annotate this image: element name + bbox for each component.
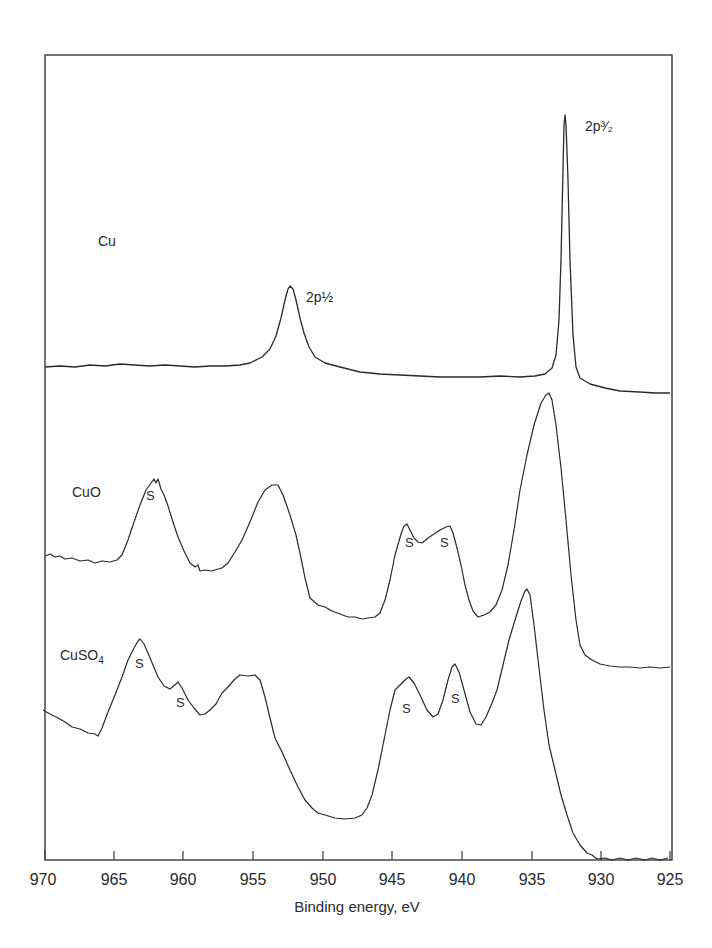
satellite-label: S xyxy=(405,535,414,550)
tick-label: 925 xyxy=(657,871,684,888)
tick-label: 965 xyxy=(101,871,128,888)
tick-label: 950 xyxy=(310,871,337,888)
cuso4-spectrum-line xyxy=(43,589,668,860)
tick-label: 940 xyxy=(449,871,476,888)
peak-label-2p-half: 2p½ xyxy=(306,289,334,305)
satellite-label: S xyxy=(135,656,144,671)
x-axis-ticks xyxy=(45,851,670,860)
xps-chart: 970 965 960 955 950 945 940 935 930 925 … xyxy=(0,0,712,948)
x-axis-tick-labels: 970 965 960 955 950 945 940 935 930 925 xyxy=(30,871,684,888)
satellite-label: S xyxy=(440,535,449,550)
satellite-label: S xyxy=(176,695,185,710)
cuo-spectrum-line xyxy=(45,393,670,668)
series-label-cuo: CuO xyxy=(72,484,101,500)
series-label-cuso4: CuSO4 xyxy=(60,647,104,666)
tick-label: 945 xyxy=(379,871,406,888)
tick-label: 930 xyxy=(588,871,615,888)
x-axis-title: Binding energy, eV xyxy=(294,898,420,915)
plot-frame xyxy=(45,55,672,860)
series-label-cuso4-main: CuSO xyxy=(60,647,98,663)
peak-label-2p-three-halves: 2p³⁄₂ xyxy=(585,118,613,134)
tick-label: 960 xyxy=(170,871,197,888)
series-label-cu: Cu xyxy=(98,233,116,249)
series-label-cuso4-subscript: 4 xyxy=(98,655,104,666)
tick-label: 970 xyxy=(30,871,57,888)
satellite-label: S xyxy=(146,488,155,503)
tick-label: 935 xyxy=(519,871,546,888)
tick-label: 955 xyxy=(240,871,267,888)
cu-spectrum-line xyxy=(45,115,670,393)
satellite-label: S xyxy=(451,691,460,706)
satellite-label: S xyxy=(402,701,411,716)
